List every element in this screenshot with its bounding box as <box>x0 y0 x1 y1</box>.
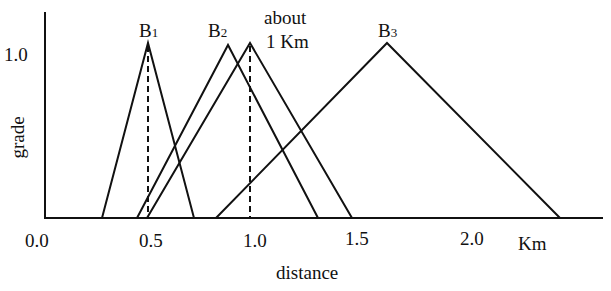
series-b2 <box>137 45 318 218</box>
label-b1: B1 <box>139 21 158 40</box>
x-tick-1.0: 1.0 <box>243 231 267 250</box>
x-axis-label: distance <box>276 263 338 282</box>
label-b3: B3 <box>378 21 397 40</box>
series-b3 <box>216 43 560 218</box>
x-tick-1.5: 1.5 <box>345 229 369 248</box>
x-unit-label: Km <box>518 234 547 253</box>
y-tick-1.0: 1.0 <box>4 45 28 64</box>
y-axis-label: grade <box>8 116 27 158</box>
x-tick-0.5: 0.5 <box>139 231 163 250</box>
x-tick-2.0: 2.0 <box>460 229 484 248</box>
label-about: about <box>264 8 306 27</box>
label-b2: B2 <box>208 21 227 40</box>
x-tick-0.0: 0.0 <box>25 231 49 250</box>
label-1km: 1 Km <box>266 32 309 51</box>
